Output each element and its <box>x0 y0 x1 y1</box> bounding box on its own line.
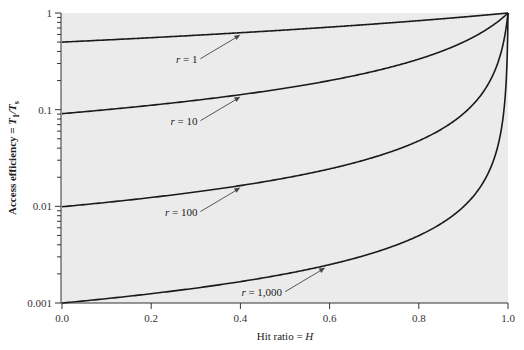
series-label: r = 1 <box>176 53 198 65</box>
y-axis-title-sub2: s <box>12 101 21 104</box>
x-axis-title: Hit ratio = H <box>257 330 315 342</box>
y-ticks: 10.10.010.001 <box>27 7 61 309</box>
y-tick-label: 0.1 <box>38 104 52 116</box>
series-label: r = 1,000 <box>241 286 282 298</box>
x-axis-title-var: H <box>304 330 314 342</box>
chart: r = 1r = 10r = 100r = 1,000 10.10.010.00… <box>0 0 524 350</box>
y-tick-label: 1 <box>47 7 53 19</box>
x-tick-label: 1.0 <box>501 312 515 324</box>
x-tick-label: 0.2 <box>144 312 158 324</box>
plot-area <box>61 13 508 303</box>
y-axis-title-prefix: Access efficiency = <box>6 125 18 215</box>
x-tick-label: 0.4 <box>234 312 248 324</box>
series-label: r = 100 <box>165 206 198 218</box>
x-tick-label: 0.0 <box>55 312 69 324</box>
y-tick-label: 0.01 <box>33 200 52 212</box>
x-axis-title-prefix: Hit ratio = <box>257 330 306 342</box>
series-label: r = 10 <box>170 115 197 127</box>
y-tick-label: 0.001 <box>27 297 52 309</box>
x-tick-label: 0.6 <box>323 312 337 324</box>
x-ticks: 0.00.20.40.60.81.0 <box>55 303 515 324</box>
x-tick-label: 0.8 <box>412 312 426 324</box>
y-axis-title: Access efficiency = T1/Ts <box>6 101 21 215</box>
